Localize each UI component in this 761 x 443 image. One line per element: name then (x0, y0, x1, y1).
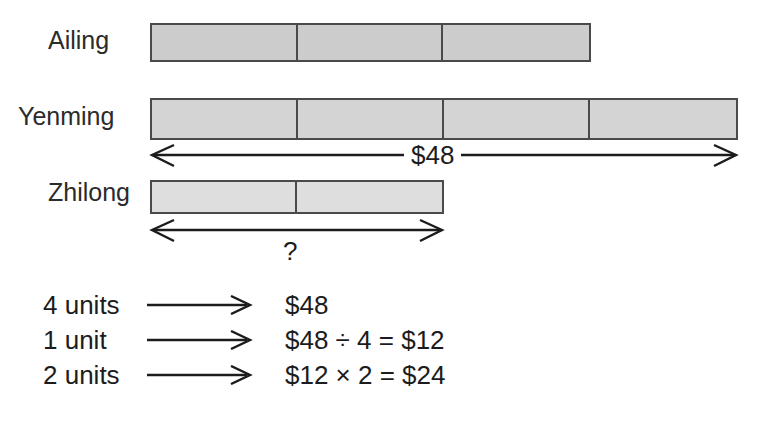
bar-segment (152, 182, 297, 212)
bar-segment (443, 25, 589, 60)
bar-ailing (150, 23, 591, 62)
bar-segment (152, 100, 298, 138)
right-arrow-icon (143, 330, 255, 350)
calculation-row: 2 units $12 × 2 = $24 (43, 359, 445, 391)
bar-label-zhilong: Zhilong (48, 180, 130, 205)
calculation-result: $12 × 2 = $24 (285, 360, 445, 390)
bar-segment (298, 25, 444, 60)
calculation-result: $48 ÷ 4 = $12 (285, 325, 445, 355)
calculation-units: 4 units (43, 290, 143, 320)
right-arrow-icon (143, 365, 255, 385)
right-arrow-icon (143, 295, 255, 315)
bar-yenming (150, 98, 738, 140)
bar-label-yenming: Yenming (18, 104, 114, 129)
bar-segment (444, 100, 590, 138)
calculation-units: 1 unit (43, 325, 143, 355)
calculation-row: 1 unit $48 ÷ 4 = $12 (43, 324, 445, 356)
measure-label-unknown: ? (283, 238, 297, 264)
measure-label-total: $48 (404, 142, 461, 168)
calculation-result: $48 (285, 290, 328, 320)
calculation-units: 2 units (43, 360, 143, 390)
calculation-row: 4 units $48 (43, 289, 328, 321)
bar-segment (298, 100, 444, 138)
bar-label-ailing: Ailing (48, 28, 109, 53)
bar-model-diagram: Ailing Yenming $48 Zhilong ? (0, 0, 761, 443)
bar-segment (590, 100, 736, 138)
bar-segment (152, 25, 298, 60)
bar-zhilong (150, 180, 444, 214)
bar-segment (297, 182, 442, 212)
